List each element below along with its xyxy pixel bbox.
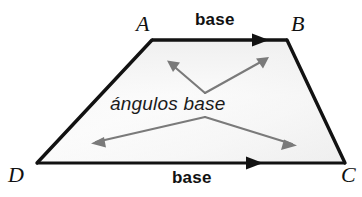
base-label-top: base xyxy=(195,11,235,28)
geometry-figure-trapezoid: A B C D base base ángulos base xyxy=(0,0,362,197)
vertex-label-b: B xyxy=(291,13,304,35)
base-label-bottom: base xyxy=(172,169,212,186)
vertex-label-d: D xyxy=(8,164,24,186)
vertex-label-a: A xyxy=(136,13,149,35)
base-angles-label: ángulos base xyxy=(110,94,225,113)
vertex-label-c: C xyxy=(341,164,356,186)
